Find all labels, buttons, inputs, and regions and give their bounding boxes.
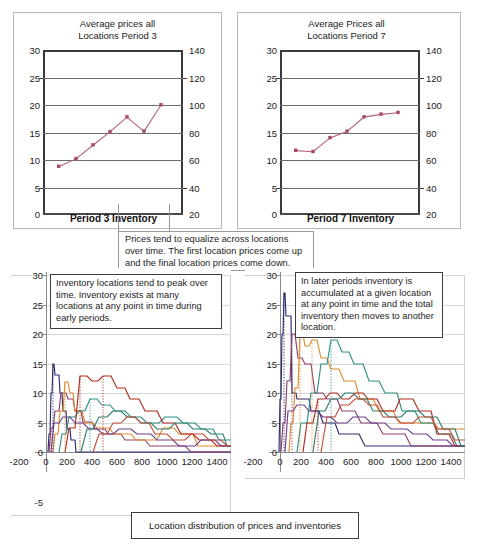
period3-ytick-left: 15 — [18, 128, 40, 139]
period3-series — [43, 50, 183, 215]
period7-ytick-right: 140 — [426, 45, 450, 56]
period3-ytick-left: 30 — [18, 45, 40, 56]
hist-late-xtick: -200 — [236, 456, 270, 467]
period3-ytick-left: 10 — [18, 155, 40, 166]
period7-ytick-right: 80 — [426, 128, 450, 139]
period7-ytick-right: 120 — [426, 73, 450, 84]
period7-plot-area — [280, 50, 420, 215]
note-leader-left — [118, 204, 119, 232]
hist-early-xtick: 1400 — [201, 456, 233, 467]
period3-ytick-right: 80 — [189, 128, 213, 139]
panel-period-7: Average Prices all Locations Period 7 — [237, 12, 461, 229]
hist-early-xtick: -200 — [2, 456, 36, 467]
hist-early-xtick: 400 — [78, 456, 106, 467]
period7-xlabel: Period 7 Inventory — [273, 213, 428, 224]
panel-period-3: Average prices all Locations Period 3 — [13, 12, 222, 229]
figure-page: Average prices all Locations Period 3 — [0, 0, 477, 546]
period7-ytick-left: 5 — [255, 183, 277, 194]
tick-mark — [276, 188, 280, 189]
period3-ytick-left: 5 — [18, 183, 40, 194]
period3-plot-area — [43, 50, 183, 215]
hist-late-xtick: 1400 — [435, 456, 467, 467]
period7-ytick-right: 100 — [426, 100, 450, 111]
tick-mark — [39, 188, 43, 189]
period7-ytick-right: 20 — [426, 209, 450, 220]
tick-mark — [183, 78, 187, 79]
period7-ytick-left: 25 — [255, 73, 277, 84]
hist-late-xtick: 200 — [287, 456, 315, 467]
note-leader-right — [169, 204, 170, 232]
middle-note: Prices tend to equalize across locations… — [118, 231, 314, 271]
period7-series — [280, 50, 420, 215]
tick-mark — [276, 78, 280, 79]
period7-ytick-right: 60 — [426, 155, 450, 166]
period3-xlabel: Period 3 Inventory — [36, 213, 191, 224]
period7-ytick-left: 20 — [255, 100, 277, 111]
hist-early-xtick: 200 — [53, 456, 81, 467]
period3-ytick-right: 120 — [189, 73, 213, 84]
tick-mark — [183, 188, 187, 189]
hist-early-note: Inventory locations tend to peak over ti… — [50, 274, 222, 329]
period7-ytick-left: 10 — [255, 155, 277, 166]
period3-ytick-right: 40 — [189, 183, 213, 194]
period3-ytick-right: 20 — [189, 209, 213, 220]
period7-title: Average Prices all Locations Period 7 — [244, 18, 449, 42]
period3-ytick-left: 20 — [18, 100, 40, 111]
tick-mark — [39, 78, 43, 79]
hist-late-xtick: 600 — [337, 456, 365, 467]
period3-ytick-right: 100 — [189, 100, 213, 111]
period3-ytick-left: 25 — [18, 73, 40, 84]
hist-late-xtick: 400 — [312, 456, 340, 467]
hist-early-ytick: -5 — [23, 497, 43, 508]
period7-ytick-left: 15 — [255, 128, 277, 139]
period3-title: Average prices all Locations Period 3 — [20, 18, 215, 42]
period3-ytick-right: 60 — [189, 155, 213, 166]
hist-late-note: In later periods inventory is accumulate… — [295, 272, 443, 338]
figure-caption: Location distribution of prices and inve… — [131, 512, 359, 539]
period7-ytick-right: 40 — [426, 183, 450, 194]
tick-mark — [420, 188, 424, 189]
hist-early-xtick: 600 — [103, 456, 131, 467]
period7-ytick-left: 30 — [255, 45, 277, 56]
period3-ytick-right: 140 — [189, 45, 213, 56]
tick-mark — [420, 78, 424, 79]
